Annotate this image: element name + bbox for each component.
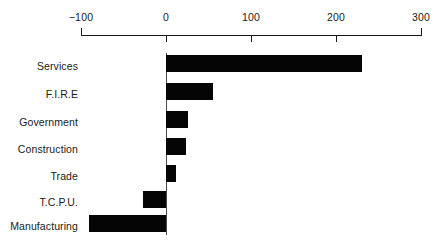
x-axis-label-0: 0 — [146, 11, 186, 23]
x-axis-label-200: 200 — [316, 11, 356, 23]
category-label-manufacturing: Manufacturing — [10, 220, 78, 232]
category-label-fire: F.I.R.E — [46, 88, 78, 100]
category-label-services: Services — [37, 60, 78, 72]
x-axis-tick-200 — [336, 36, 337, 42]
bar-chart: −100 0 100 200 300 Services F.I.R.E Gove… — [0, 0, 442, 244]
bar-construction — [166, 138, 186, 155]
x-axis-tick-0 — [166, 36, 167, 42]
x-axis-tick--100 — [81, 28, 82, 36]
x-axis-label--100: −100 — [61, 11, 101, 23]
category-label-government: Government — [19, 116, 78, 128]
category-label-construction: Construction — [18, 143, 78, 155]
bar-services — [166, 55, 362, 72]
x-axis-label-300: 300 — [401, 11, 441, 23]
bar-government — [166, 111, 188, 128]
x-axis-label-100: 100 — [231, 11, 271, 23]
bar-manufacturing — [89, 215, 166, 232]
bar-tcpu — [143, 191, 166, 208]
category-label-tcpu: T.C.P.U. — [39, 196, 78, 208]
bar-trade — [166, 165, 176, 182]
x-axis-tick-100 — [251, 36, 252, 42]
bar-fire — [166, 83, 213, 100]
x-axis-tick-300 — [421, 28, 422, 36]
category-label-trade: Trade — [50, 170, 78, 182]
